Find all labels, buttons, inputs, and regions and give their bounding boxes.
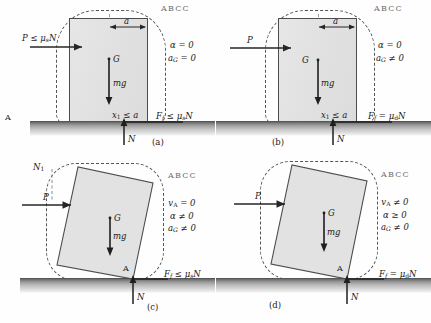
normal-force-label: N [351, 292, 358, 302]
panel-d: P G mg A Ff = μdN N ABCC vA ≠ 0 α ≥ 0 aG… [216, 161, 431, 323]
figure-canvas: P ≤ μsN A a G mg x1 ≤ a Ff ≤ μsN N ABCC … [0, 0, 431, 323]
offset-label: x1 ≤ a [321, 110, 347, 120]
panel-caption: (c) [147, 302, 158, 312]
friction-label: Ff = μdN [368, 111, 405, 121]
applied-force-label: P [247, 35, 253, 45]
state-row: vA ≠ 0 [381, 197, 409, 210]
offset-label: x1 ≤ a [112, 110, 138, 120]
dimension-label: a [124, 16, 129, 26]
state-conditions: vA = 0 α ≠ 0 aG ≠ 0 [168, 198, 196, 236]
panel-c-vectors [0, 161, 215, 323]
friction-label: Ff ≤ μsN [156, 111, 193, 121]
center-of-gravity-label: G [328, 208, 335, 218]
center-of-gravity-label: G [113, 54, 120, 64]
state-conditions: α = 0 aG ≠ 0 [376, 40, 404, 65]
applied-force-label: P ≤ μsN [22, 33, 56, 43]
applied-force-arrow [22, 201, 71, 208]
state-row: aG ≠ 0 [168, 223, 196, 236]
contact-point-label: A [123, 264, 129, 273]
ground-point-label: A [5, 113, 11, 122]
applied-force-arrow [230, 45, 291, 52]
applied-force-label: P [43, 192, 49, 202]
panel-a-vectors [0, 0, 215, 161]
panel-b: P a G mg x1 ≤ a Ff = μdN N ABCC α = 0 aG… [216, 0, 431, 161]
weight-label: mg [321, 78, 335, 88]
watermark: ABCC [161, 4, 190, 13]
normal-force-label: N [137, 292, 144, 302]
weight-label: mg [327, 227, 341, 237]
friction-label: Ff ≤ μsN [164, 269, 201, 279]
friction-label: Ff = μdN [379, 269, 416, 279]
panel-c: N1 P G mg A Ff ≤ μsN N ABCC vA = 0 α ≠ 0… [0, 161, 215, 323]
state-conditions: α = 0 aG = 0 [168, 40, 196, 65]
weight-label: mg [113, 78, 127, 88]
applied-force-arrow [234, 200, 285, 207]
center-of-gravity-label: G [114, 213, 121, 223]
block-body [271, 165, 367, 279]
state-conditions: vA ≠ 0 α ≥ 0 aG ≠ 0 [381, 197, 409, 235]
applied-force-arrow [30, 44, 82, 51]
watermark: ABCC [381, 170, 410, 179]
panel-d-vectors [216, 161, 431, 323]
center-of-gravity-label: G [302, 55, 309, 65]
contact-point-label: A [337, 264, 343, 273]
state-row: vA = 0 [168, 198, 196, 211]
normal-force-label: N [337, 134, 344, 144]
panel-caption: (d) [269, 300, 281, 310]
state-row: aG = 0 [168, 53, 196, 66]
watermark: ABCC [168, 171, 197, 180]
weight-arrow [106, 58, 113, 105]
state-row: α = 0 [168, 40, 196, 53]
state-row: α = 0 [376, 40, 404, 53]
watermark: ABCC [374, 4, 403, 13]
panel-caption: (b) [272, 137, 284, 147]
state-row: aG ≠ 0 [376, 53, 404, 66]
normal-guide-label: N1 [33, 162, 44, 172]
panel-a: P ≤ μsN A a G mg x1 ≤ a Ff ≤ μsN N ABCC … [0, 0, 215, 161]
dimension-label: a [333, 16, 338, 26]
state-row: aG ≠ 0 [381, 222, 409, 235]
state-row: α ≥ 0 [381, 210, 409, 223]
weight-label: mg [113, 231, 127, 241]
block-body [57, 167, 153, 279]
normal-force-label: N [128, 134, 135, 144]
state-row: α ≠ 0 [168, 211, 196, 224]
applied-force-label: P [255, 191, 261, 201]
panel-caption: (a) [152, 137, 164, 147]
